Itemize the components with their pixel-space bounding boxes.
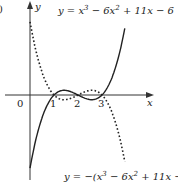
y-axis-arrow-icon [27,1,33,9]
axes: y x 0 1 2 3 [5,1,154,180]
y-axis-label: y [34,1,41,12]
dotted-curve-equation: y = −(x3 − 6x2 + 11x − 6) [63,170,178,182]
x-axis-label: x [147,97,153,108]
solid-curve-equation: y = x3 − 6x2 + 11x − 6 [57,4,175,16]
x-tick-2: 2 [74,98,80,109]
x-tick-3: 3 [98,98,104,109]
cubic-curve-reflected-dotted [30,22,125,162]
panel-label: ) [0,3,3,14]
origin-label: 0 [17,98,23,109]
cubic-reflection-chart: ) y x 0 1 2 3 y = x3 − 6x2 + 11x − 6 y =… [0,0,178,184]
